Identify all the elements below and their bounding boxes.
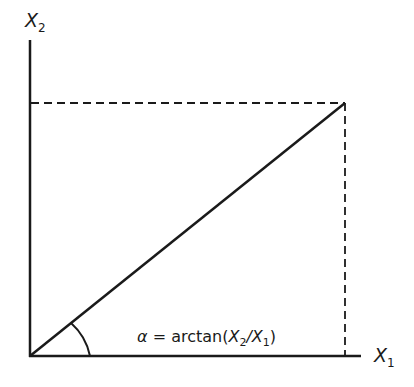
x-axis-label: X1 <box>373 344 395 370</box>
angle-arc <box>71 323 90 356</box>
y-axis-label: X2 <box>24 9 46 35</box>
vector-line <box>30 103 345 356</box>
angle-formula-label: α = arctan(X2/X1) <box>137 327 276 349</box>
angle-diagram: X2 X1 α = arctan(X2/X1) <box>0 0 414 387</box>
